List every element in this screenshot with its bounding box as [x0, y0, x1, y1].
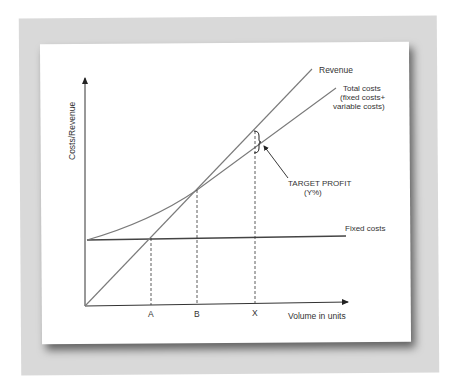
y-axis-label: Costs/Revenue [67, 102, 77, 160]
fixed-costs-line [87, 236, 346, 240]
total-costs-label-2: (fixed costs+ [340, 93, 385, 102]
marker-a-label: A [148, 309, 154, 319]
x-axis [85, 302, 348, 306]
total-costs-label-1: Total costs [343, 84, 381, 93]
x-axis-label: Volume in units [288, 311, 346, 321]
marker-x-label: X [252, 308, 258, 318]
total-costs-curve [87, 88, 336, 240]
fixed-costs-label: Fixed costs [345, 224, 385, 233]
target-profit-label-1: TARGET PROFIT [288, 179, 351, 188]
target-profit-arrow [264, 146, 288, 178]
revenue-line [85, 69, 312, 306]
marker-b-label: B [194, 309, 200, 319]
total-costs-label-3: variable costs) [333, 102, 385, 111]
break-even-diagram: Costs/Revenue Volume in units Revenue To… [0, 0, 450, 389]
target-profit-label-2: (Y%) [304, 188, 322, 197]
revenue-label: Revenue [319, 65, 353, 75]
